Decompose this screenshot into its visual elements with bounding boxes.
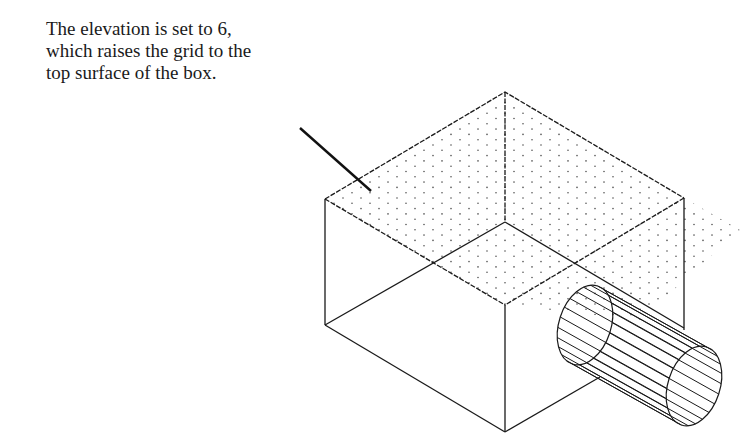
leader-line: [300, 128, 371, 191]
isometric-drawing: [0, 0, 754, 445]
